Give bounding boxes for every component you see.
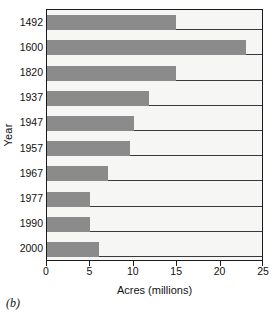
panel-label: (b) xyxy=(6,296,20,311)
bar-1990 xyxy=(47,217,90,232)
bar-1947 xyxy=(47,116,134,131)
bar-1967 xyxy=(47,166,108,181)
bar-1957 xyxy=(47,141,130,156)
y-tick-label-1937: 1937 xyxy=(20,92,43,103)
bar-1600 xyxy=(47,40,246,55)
bar-1937 xyxy=(47,91,149,106)
y-axis-title-text: Year xyxy=(2,123,14,146)
bar-1977 xyxy=(47,192,90,207)
y-axis-tick-labels: 1492160018201937194719571967197719902000 xyxy=(14,9,46,261)
x-tick-label-0: 0 xyxy=(43,266,49,277)
y-tick-label-1492: 1492 xyxy=(20,17,43,28)
y-tick-label-1600: 1600 xyxy=(20,42,43,53)
bar-1492 xyxy=(47,15,176,30)
x-tick-label-5: 5 xyxy=(86,266,92,277)
x-tick-label-20: 20 xyxy=(214,266,226,277)
y-tick-label-1977: 1977 xyxy=(20,193,43,204)
x-tick-label-15: 15 xyxy=(170,266,182,277)
y-tick-label-1957: 1957 xyxy=(20,143,43,154)
x-tick-label-25: 25 xyxy=(257,266,269,277)
bar-2000 xyxy=(47,242,99,257)
bar-1820 xyxy=(47,66,176,81)
figure-panel-b: Year 14921600182019371947195719671977199… xyxy=(0,0,277,316)
x-axis-title: Acres (millions) xyxy=(46,284,263,296)
y-tick-label-2000: 2000 xyxy=(20,243,43,254)
y-tick-label-1947: 1947 xyxy=(20,117,43,128)
y-tick-label-1990: 1990 xyxy=(20,218,43,229)
y-tick-label-1967: 1967 xyxy=(20,168,43,179)
x-axis-tick-labels: 0510152025 xyxy=(46,266,263,280)
plot-area xyxy=(46,9,263,261)
y-tick-label-1820: 1820 xyxy=(20,67,43,78)
x-tick-label-10: 10 xyxy=(127,266,139,277)
